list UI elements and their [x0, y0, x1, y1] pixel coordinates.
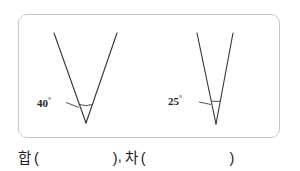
left-angle-label-value: 40: [37, 97, 49, 109]
left-angle-arc: [80, 105, 93, 106]
left-angle-label: 40°: [37, 96, 51, 109]
angle-figure-panel: 40° 25°: [18, 14, 280, 138]
diff-paren-close: ): [230, 150, 235, 166]
right-angle-degree-icon: °: [179, 94, 182, 103]
answer-line: 합(),차(): [18, 143, 286, 169]
worksheet-page: 40° 25° 합(),차(): [0, 0, 300, 171]
angle-group-left: 40°: [37, 33, 117, 123]
sum-answer-group: 합(): [18, 146, 118, 167]
right-angle-ray-left: [197, 33, 216, 124]
right-angle-ray-right: [216, 33, 233, 124]
sum-paren-open: (: [31, 150, 39, 166]
right-angle-label-value: 25: [168, 95, 180, 107]
sum-label: 합: [18, 146, 31, 167]
right-angle-label: 25°: [168, 94, 182, 107]
diff-answer-group: 차(): [125, 146, 235, 167]
left-angle-degree-icon: °: [48, 96, 51, 105]
left-angle-leader-line: [66, 103, 79, 108]
left-angle-ray-right: [86, 33, 117, 123]
answer-separator: ,: [118, 148, 125, 164]
diff-paren-open: (: [138, 150, 146, 166]
right-angle-leader-line: [199, 102, 211, 105]
left-angle-ray-left: [54, 33, 86, 123]
angle-group-right: 25°: [168, 33, 233, 124]
angle-figure-svg: 40° 25°: [19, 15, 281, 139]
diff-label: 차: [125, 146, 138, 167]
